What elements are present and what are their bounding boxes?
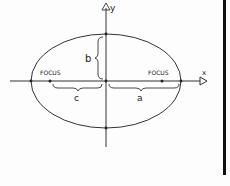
vertex-left: [30, 80, 33, 83]
x-axis-arrow-icon: [200, 77, 207, 85]
x-axis-label: x: [202, 69, 206, 77]
brace-c: [53, 84, 102, 91]
focus-left-point: [49, 80, 52, 83]
right-border: [223, 0, 226, 175]
focus-left-label: FOCUS: [40, 69, 61, 76]
ellipse-diagram: x y FOCUS FOCUS b c a: [0, 0, 230, 186]
center: [105, 80, 108, 83]
label-b: b: [85, 53, 91, 64]
y-axis-label: y: [110, 3, 116, 13]
vertex-bottom: [105, 127, 108, 130]
focus-right-point: [161, 80, 164, 83]
focus-right-label: FOCUS: [148, 69, 169, 76]
vertex-top: [105, 33, 108, 36]
brace-a: [109, 84, 179, 91]
brace-b: [95, 37, 103, 79]
label-a: a: [137, 93, 143, 103]
label-c: c: [74, 93, 79, 103]
vertex-right: [180, 80, 183, 83]
